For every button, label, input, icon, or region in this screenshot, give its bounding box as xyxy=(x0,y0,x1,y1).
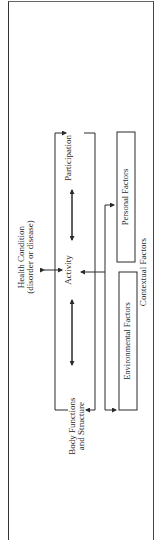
personal-factors-label: Personal Factors xyxy=(121,145,133,249)
environmental-factors-label: Environmental Factors xyxy=(123,285,135,397)
activity-node: Activity xyxy=(64,250,76,290)
health-condition-sublabel: (disorder or disease) xyxy=(26,212,35,302)
health-condition-node: Health Condition (disorder or disease) xyxy=(17,212,39,302)
contextual-factors-label: Contextual Factors xyxy=(139,222,151,322)
body-functions-node: Body Functions and Structure xyxy=(68,396,90,456)
rotated-page: Health Condition (disorder or disease) P… xyxy=(0,0,161,543)
participation-node: Participation xyxy=(64,128,76,188)
body-functions-sublabel: and Structure xyxy=(77,396,86,456)
margin-note xyxy=(155,10,161,180)
